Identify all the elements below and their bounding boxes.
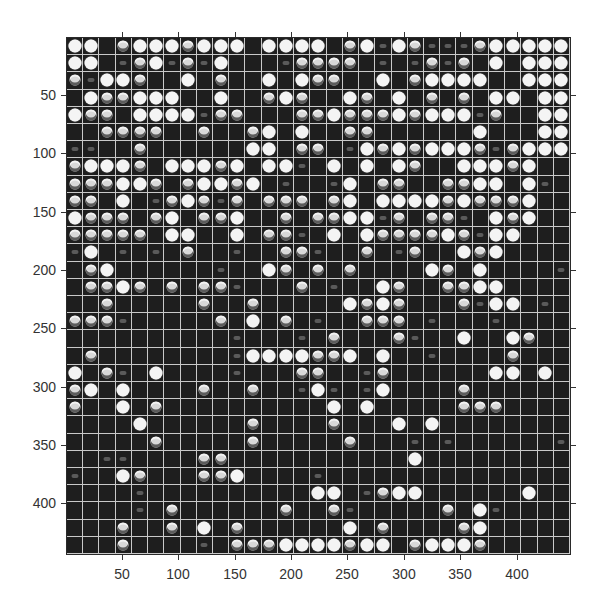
spot-icon	[280, 264, 291, 275]
grid-cell	[262, 382, 278, 399]
spot-icon	[296, 58, 307, 69]
spot-icon	[522, 160, 535, 173]
grid-cell	[213, 244, 229, 261]
grid-cell	[310, 193, 326, 210]
grid-cell	[538, 262, 554, 279]
spot-icon	[312, 367, 323, 378]
grid-cell	[473, 520, 489, 537]
spot-icon	[84, 57, 97, 70]
spot-icon	[215, 471, 226, 482]
grid-cell	[505, 382, 521, 399]
spot-icon	[328, 401, 341, 414]
grid-cell	[164, 55, 180, 72]
grid-cell	[132, 468, 148, 485]
grid-cell	[132, 38, 148, 55]
grid-cell	[67, 485, 83, 502]
grid-cell	[538, 330, 554, 347]
grid-cell	[67, 193, 83, 210]
image-plot-area[interactable]	[66, 37, 571, 555]
spot-icon	[68, 40, 81, 53]
spot-icon	[199, 471, 210, 482]
grid-cell	[489, 313, 505, 330]
grid-cell	[456, 365, 472, 382]
grid-cell	[343, 90, 359, 107]
grid-cell	[521, 399, 537, 416]
spot-icon	[183, 247, 194, 258]
grid-cell	[538, 141, 554, 158]
spot-icon	[165, 108, 178, 121]
grid-cell	[310, 537, 326, 554]
grid-cell	[521, 313, 537, 330]
grid-cell	[538, 485, 554, 502]
spot-icon	[183, 178, 194, 189]
spot-icon	[312, 75, 323, 86]
spot-icon	[231, 109, 242, 120]
grid-cell	[164, 141, 180, 158]
spot-icon	[425, 194, 438, 207]
grid-cell	[327, 520, 343, 537]
grid-cell	[538, 468, 554, 485]
grid-cell	[278, 158, 294, 175]
spot-icon	[490, 246, 503, 259]
grid-cell	[278, 193, 294, 210]
spot-icon	[507, 213, 518, 224]
grid-cell	[538, 520, 554, 537]
grid-cell	[505, 330, 521, 347]
spot-icon	[166, 195, 177, 206]
spot-icon	[183, 41, 194, 52]
spot-icon	[134, 230, 145, 241]
grid-cell	[473, 313, 489, 330]
spot-icon	[344, 194, 357, 207]
spot-icon	[393, 160, 406, 173]
spot-icon	[134, 127, 145, 138]
grid-cell	[473, 416, 489, 433]
spot-icon	[393, 108, 406, 121]
grid-cell	[375, 107, 391, 124]
spot-icon	[102, 92, 113, 103]
grid-cell	[278, 244, 294, 261]
grid-cell	[473, 158, 489, 175]
spot-icon	[102, 299, 113, 310]
spot-icon	[361, 316, 372, 327]
grid-cell	[310, 262, 326, 279]
grid-cell	[213, 176, 229, 193]
spot-icon	[477, 113, 484, 117]
grid-cell	[392, 210, 408, 227]
grid-cell	[408, 382, 424, 399]
spot-icon	[85, 195, 96, 206]
grid-cell	[245, 107, 261, 124]
spot-icon	[409, 487, 422, 500]
y-tick-right	[571, 95, 576, 96]
grid-cell	[505, 38, 521, 55]
grid-cell	[327, 279, 343, 296]
grid-cell	[424, 416, 440, 433]
grid-cell	[392, 38, 408, 55]
grid-cell	[278, 313, 294, 330]
spot-icon	[182, 74, 195, 87]
grid-cell	[456, 434, 472, 451]
spot-icon	[558, 268, 565, 272]
grid-cell	[392, 485, 408, 502]
grid-cell	[489, 141, 505, 158]
spot-icon	[165, 91, 178, 104]
grid-cell	[262, 502, 278, 519]
spot-icon	[441, 143, 454, 156]
spot-icon	[199, 453, 210, 464]
grid-cell	[456, 468, 472, 485]
grid-cell	[359, 90, 375, 107]
grid-cell	[116, 382, 132, 399]
grid-cell	[164, 485, 180, 502]
grid-cell	[343, 227, 359, 244]
spot-icon	[459, 281, 470, 292]
grid-cell	[164, 279, 180, 296]
spot-icon	[394, 333, 405, 344]
spot-icon	[248, 299, 259, 310]
grid-cell	[424, 296, 440, 313]
grid-cell	[538, 244, 554, 261]
grid-cell	[359, 38, 375, 55]
grid-cell	[164, 468, 180, 485]
spot-icon	[134, 281, 145, 292]
grid-cell	[538, 72, 554, 89]
grid-cell	[67, 416, 83, 433]
grid-cell	[213, 55, 229, 72]
